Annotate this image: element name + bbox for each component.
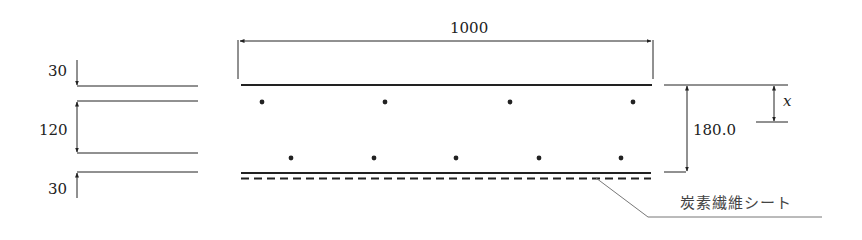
top-rebars: [260, 100, 636, 105]
bottom-cover-label: 30: [48, 182, 67, 197]
bottom-rebars: [289, 156, 624, 161]
middle-layer-label: 120: [39, 123, 68, 138]
total-height-label: 180.0: [693, 123, 736, 138]
width-dimension: [238, 40, 653, 79]
width-label: 1000: [450, 21, 488, 36]
neutral-axis-label: x: [783, 94, 791, 109]
top-cover-label: 30: [48, 64, 67, 79]
carbon-fiber-sheet-label: 炭素繊維シート: [680, 196, 792, 211]
left-layer-dimensions: [77, 60, 198, 198]
